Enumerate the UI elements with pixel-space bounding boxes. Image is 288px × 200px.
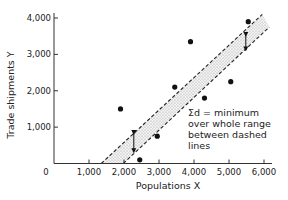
annotation-text: Σd = minimumover whole rangebetween dash… [188,107,271,151]
x-axis-label: Populations X [136,180,201,191]
x-tick-label: 6,000 [252,167,276,177]
data-point [228,79,233,84]
x-tick-label: 4,000 [182,167,206,177]
y-tick-label: 3,000 [27,49,51,59]
annotation-line: between dashed [188,129,267,140]
band-fill [101,14,269,163]
data-point [202,95,207,100]
annotation-line: lines [188,140,210,151]
data-point [246,19,251,24]
data-point [172,85,177,90]
confidence-band [101,14,269,163]
x-tick-label: 0 [43,167,48,177]
y-tick-label: 4,000 [27,13,51,23]
y-tick-label: 1,000 [27,122,51,132]
x-tick-label: 1,000 [77,167,101,177]
x-tick-label: 5,000 [217,167,241,177]
upper-dashed-line [101,14,262,163]
data-point [118,106,123,111]
x-tick-label: 2,000 [112,167,136,177]
y-axis-ticks: 1,0002,0003,0004,000 [27,13,58,132]
y-axis-label: Trade shipments Y [5,51,16,139]
data-point [188,39,193,44]
y-tick-label: 2,000 [27,86,51,96]
x-tick-label: 3,000 [147,167,171,177]
data-point [155,134,160,139]
data-point [137,157,142,162]
annotation-line: Σd = minimum [188,107,259,118]
scatter-chart: 1,0002,0003,0004,000 01,0002,0003,0004,0… [0,0,288,200]
annotation-line: over whole range [188,118,271,129]
x-axis-ticks: 01,0002,0003,0004,0005,0006,000 [43,160,276,178]
